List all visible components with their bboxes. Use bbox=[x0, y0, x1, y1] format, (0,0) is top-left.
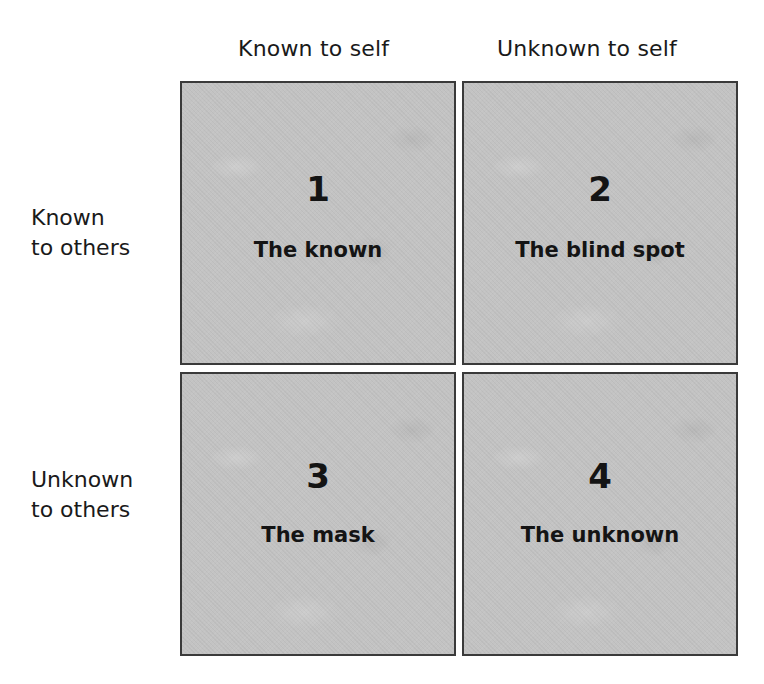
quadrant-label: The known bbox=[182, 238, 454, 262]
quadrant-number: 1 bbox=[182, 169, 454, 209]
quadrant-3-the-mask: 3 The mask bbox=[180, 372, 456, 656]
quadrant-2-the-blind-spot: 2 The blind spot bbox=[462, 81, 738, 365]
row-header-unknown-to-others: Unknown to others bbox=[31, 465, 133, 525]
row-header-line2: to others bbox=[31, 495, 133, 525]
quadrant-label: The unknown bbox=[464, 523, 736, 547]
row-header-line2: to others bbox=[31, 233, 130, 263]
column-header-unknown-to-self: Unknown to self bbox=[497, 36, 677, 61]
quadrant-label: The mask bbox=[182, 523, 454, 547]
quadrant-number: 3 bbox=[182, 456, 454, 496]
quadrant-number: 2 bbox=[464, 169, 736, 209]
quadrant-number: 4 bbox=[464, 456, 736, 496]
row-header-line1: Known bbox=[31, 203, 130, 233]
row-header-line1: Unknown bbox=[31, 465, 133, 495]
quadrant-label: The blind spot bbox=[464, 238, 736, 262]
quadrant-1-the-known: 1 The known bbox=[180, 81, 456, 365]
row-header-known-to-others: Known to others bbox=[31, 203, 130, 263]
column-header-known-to-self: Known to self bbox=[238, 36, 389, 61]
quadrant-4-the-unknown: 4 The unknown bbox=[462, 372, 738, 656]
